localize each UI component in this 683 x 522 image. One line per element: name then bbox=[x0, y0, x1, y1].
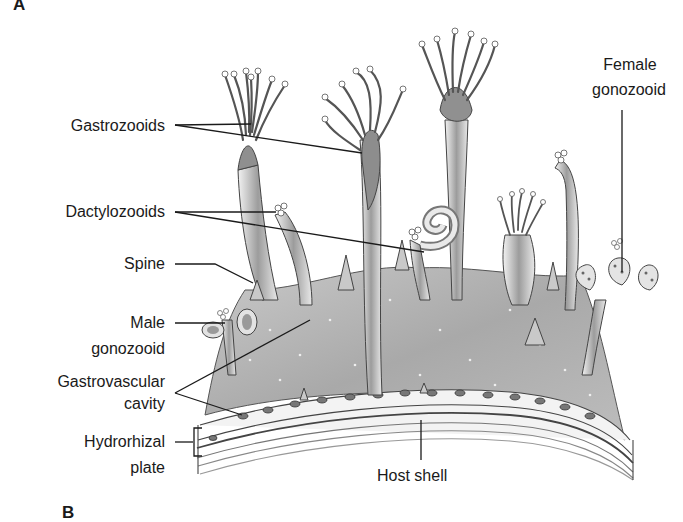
label-gastrozooids: Gastrozooids bbox=[71, 116, 165, 135]
label-hydrorhizal-line1: Hydrorhizal bbox=[84, 432, 165, 451]
label-gastrovascular-line1: Gastrovascular bbox=[57, 372, 165, 391]
label-hydrorhizal-line2: plate bbox=[130, 458, 165, 477]
label-host-shell: Host shell bbox=[377, 466, 447, 485]
label-female-gonozooid-line2: gonozooid bbox=[577, 80, 681, 99]
label-gastrovascular-line2: cavity bbox=[124, 394, 165, 413]
label-male-gonozooid-line2: gonozooid bbox=[91, 339, 165, 358]
label-dactylozooids: Dactylozooids bbox=[65, 202, 165, 221]
label-spine: Spine bbox=[124, 254, 165, 273]
label-female-gonozooid-line1: Female bbox=[590, 55, 670, 74]
label-male-gonozooid-line1: Male bbox=[130, 313, 165, 332]
gastrozooid-left bbox=[222, 68, 288, 300]
gastrozooid-right bbox=[419, 28, 498, 300]
